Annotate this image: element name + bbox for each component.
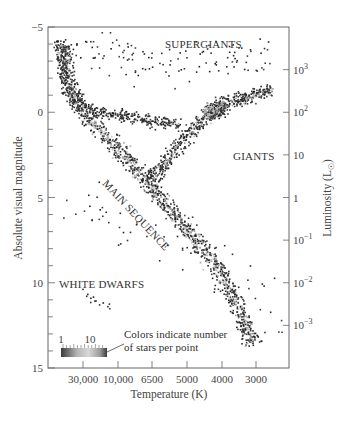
x-tick-label: 10,000 bbox=[103, 373, 134, 385]
y2-tick-label: 10 bbox=[293, 149, 305, 161]
annotation-supergiants: SUPERGIANTS bbox=[165, 38, 242, 50]
x-tick-label: 6500 bbox=[141, 373, 164, 385]
y-tick-label: 15 bbox=[32, 362, 44, 374]
y2-tick-label: 10−1 bbox=[293, 232, 313, 246]
colorbar-ticks bbox=[63, 344, 103, 348]
y-tick-label: 10 bbox=[32, 277, 44, 289]
plot-frame bbox=[48, 27, 289, 368]
y2-tick-label: 10−2 bbox=[293, 275, 313, 289]
annotation-main-sequence: MAIN SEQUENCE bbox=[101, 177, 173, 253]
colorbar-max-label: 10 bbox=[85, 333, 97, 345]
x-tick-label: 30,000 bbox=[68, 373, 99, 385]
colorbar-min-label: 1 bbox=[58, 333, 64, 345]
x-tick-label: 4000 bbox=[211, 373, 234, 385]
colorbar bbox=[61, 348, 107, 357]
y-tick-label: 0 bbox=[38, 106, 44, 118]
y-axis-left: −5051015 bbox=[31, 21, 55, 374]
y-tick-label: −5 bbox=[31, 21, 43, 33]
colorbar-note-line2: of stars per point bbox=[124, 341, 198, 353]
hr-diagram: −5051015 10310210110−110−210−3 30,00010,… bbox=[0, 0, 347, 424]
y-axis-right: 10310210110−110−210−3 bbox=[283, 62, 313, 332]
x-axis: 30,00010,0006500500040003000 bbox=[68, 361, 268, 385]
y2-tick-label: 10−3 bbox=[293, 317, 313, 331]
colorbar-note-line1: Colors indicate number bbox=[124, 328, 228, 340]
y2-tick-label: 1 bbox=[293, 192, 299, 204]
x-tick-label: 3000 bbox=[245, 373, 268, 385]
y-axis-title: Absolute visual magnitude bbox=[12, 136, 25, 259]
annotation-giants: GIANTS bbox=[233, 150, 275, 162]
y2-tick-label: 102 bbox=[293, 104, 308, 118]
annotation-white-dwarfs: WHITE DWARFS bbox=[59, 278, 144, 290]
colorbar-pointer bbox=[107, 344, 124, 352]
colorbar-legend: 1 10 Colors indicate number of stars per… bbox=[58, 328, 227, 357]
y2-tick-label: 103 bbox=[293, 62, 308, 76]
x-tick-label: 5000 bbox=[176, 373, 199, 385]
x-axis-title: Temperature (K) bbox=[131, 388, 208, 401]
star-points bbox=[53, 32, 282, 347]
y-tick-label: 5 bbox=[38, 192, 44, 204]
y2-axis-title: Luminosity (L☉) bbox=[321, 159, 336, 237]
